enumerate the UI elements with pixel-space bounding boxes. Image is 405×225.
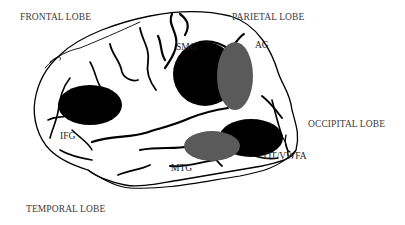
- ifg-region: [58, 85, 122, 125]
- frontal-lobe-label: FRONTAL LOBE: [20, 13, 91, 23]
- temporal-lobe-label: TEMPORAL LOBE: [26, 205, 105, 215]
- mtg-region: [184, 131, 240, 161]
- occipital-lobe-label: OCCIPITAL LOBE: [308, 120, 385, 130]
- smg-label: SMG: [176, 43, 197, 53]
- ag-label: AG: [255, 41, 269, 51]
- brain-diagram: FRONTAL LOBE PARIETAL LOBE OCCIPITAL LOB…: [0, 0, 405, 225]
- ot-vwfa-label: OT/VWFA: [264, 152, 307, 162]
- parietal-lobe-label: PARIETAL LOBE: [232, 13, 304, 23]
- brain-outline-drawing: [0, 0, 405, 225]
- mtg-label: MTG: [171, 164, 192, 174]
- ag-region: [217, 42, 253, 110]
- ifg-label: IFG: [60, 132, 75, 142]
